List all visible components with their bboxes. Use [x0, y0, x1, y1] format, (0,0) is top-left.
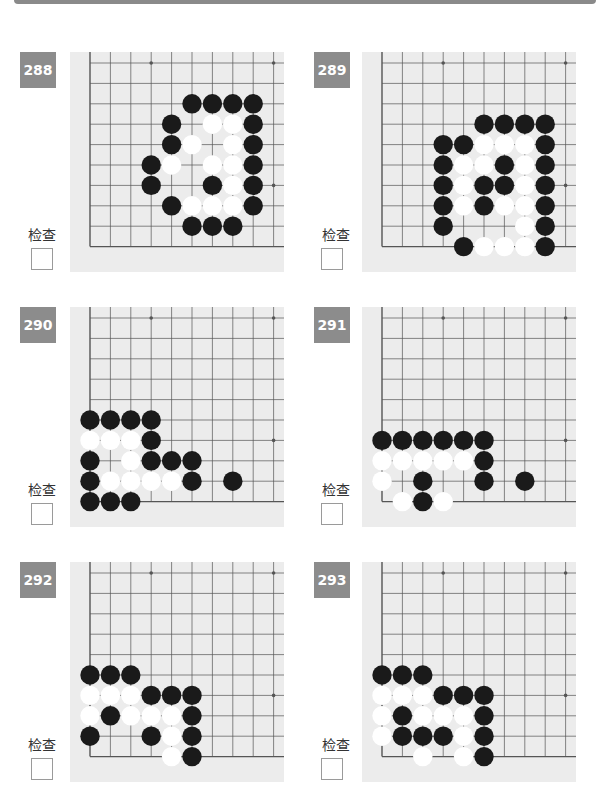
white-stone — [413, 706, 432, 725]
white-stone — [203, 196, 222, 215]
check-label: 检查 — [322, 224, 350, 244]
star-point — [441, 61, 445, 65]
star-point — [272, 694, 276, 698]
problem-number-badge: 290 — [20, 307, 56, 343]
problem-291: 291 检查 — [314, 307, 604, 532]
black-stone — [101, 410, 120, 429]
star-point — [564, 439, 568, 443]
white-stone — [142, 706, 161, 725]
check-label: 检查 — [322, 479, 350, 499]
star-point — [272, 184, 276, 188]
white-stone — [80, 686, 99, 705]
white-stone — [121, 472, 140, 491]
black-stone — [80, 727, 99, 746]
black-stone — [182, 217, 201, 236]
black-stone — [162, 196, 181, 215]
check-checkbox[interactable] — [31, 248, 53, 270]
white-stone — [474, 237, 493, 256]
black-stone — [434, 686, 453, 705]
black-stone — [142, 451, 161, 470]
black-stone — [101, 665, 120, 684]
black-stone — [142, 431, 161, 450]
white-stone — [101, 431, 120, 450]
check-checkbox[interactable] — [321, 503, 343, 525]
star-point — [564, 316, 568, 320]
check-checkbox[interactable] — [31, 503, 53, 525]
check-label: 检查 — [28, 734, 56, 754]
star-point — [564, 61, 568, 65]
white-stone — [413, 747, 432, 766]
problem-290: 290 检查 — [20, 307, 310, 532]
white-stone — [203, 155, 222, 174]
white-stone — [515, 135, 534, 154]
problem-289: 289 检查 — [314, 52, 604, 277]
check-label: 检查 — [322, 734, 350, 754]
black-stone — [80, 492, 99, 511]
black-stone — [495, 115, 514, 134]
black-stone — [182, 706, 201, 725]
black-stone — [536, 237, 555, 256]
problem-number-badge: 291 — [314, 307, 350, 343]
white-stone — [413, 686, 432, 705]
black-stone — [244, 135, 263, 154]
white-stone — [372, 706, 391, 725]
black-stone — [182, 472, 201, 491]
black-stone — [121, 410, 140, 429]
white-stone — [474, 155, 493, 174]
white-stone — [515, 217, 534, 236]
check-checkbox[interactable] — [321, 248, 343, 270]
black-stone — [121, 492, 140, 511]
black-stone — [203, 176, 222, 195]
white-stone — [434, 706, 453, 725]
check-checkbox[interactable] — [321, 758, 343, 780]
go-board — [70, 52, 284, 272]
white-stone — [121, 431, 140, 450]
black-stone — [244, 196, 263, 215]
black-stone — [454, 431, 473, 450]
white-stone — [372, 727, 391, 746]
problem-293: 293 检查 — [314, 562, 604, 787]
star-point — [441, 571, 445, 575]
problem-number-badge: 293 — [314, 562, 350, 598]
black-stone — [372, 431, 391, 450]
white-stone — [515, 196, 534, 215]
white-stone — [142, 472, 161, 491]
black-stone — [474, 472, 493, 491]
black-stone — [413, 431, 432, 450]
black-stone — [203, 217, 222, 236]
black-stone — [244, 94, 263, 113]
black-stone — [474, 431, 493, 450]
black-stone — [474, 176, 493, 195]
go-board — [70, 307, 284, 527]
star-point — [564, 571, 568, 575]
black-stone — [142, 686, 161, 705]
white-stone — [454, 196, 473, 215]
black-stone — [536, 196, 555, 215]
black-stone — [162, 115, 181, 134]
white-stone — [80, 706, 99, 725]
black-stone — [434, 727, 453, 746]
black-stone — [474, 686, 493, 705]
black-stone — [162, 451, 181, 470]
black-stone — [474, 706, 493, 725]
black-stone — [536, 135, 555, 154]
black-stone — [454, 237, 473, 256]
black-stone — [80, 472, 99, 491]
problem-number-badge: 289 — [314, 52, 350, 88]
black-stone — [536, 115, 555, 134]
white-stone — [495, 237, 514, 256]
white-stone — [162, 727, 181, 746]
black-stone — [495, 155, 514, 174]
black-stone — [223, 217, 242, 236]
check-checkbox[interactable] — [31, 758, 53, 780]
black-stone — [142, 727, 161, 746]
black-stone — [101, 706, 120, 725]
white-stone — [393, 686, 412, 705]
star-point — [272, 439, 276, 443]
black-stone — [434, 135, 453, 154]
star-point — [441, 316, 445, 320]
star-point — [272, 61, 276, 65]
white-stone — [495, 135, 514, 154]
white-stone — [515, 155, 534, 174]
black-stone — [495, 176, 514, 195]
